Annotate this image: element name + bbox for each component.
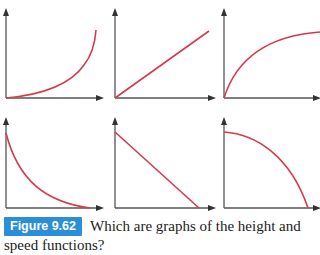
graph-bottom-right [221, 117, 320, 211]
graph-top-middle [112, 8, 216, 101]
figure-caption: Figure 9.62Which are graphs of the heigh… [4, 217, 320, 255]
graph-bottom-middle [112, 117, 216, 211]
graph-top-left [3, 8, 104, 101]
graph-bottom-left [3, 117, 104, 211]
graph-top-right [221, 8, 320, 101]
figure-label-badge: Figure 9.62 [4, 217, 82, 236]
